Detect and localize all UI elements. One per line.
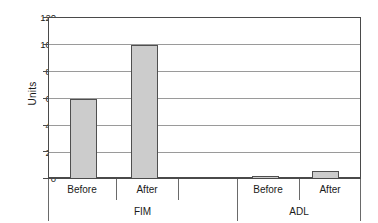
bar-fim-before bbox=[70, 99, 97, 180]
x-label-fim-before: Before bbox=[48, 178, 116, 200]
x-sub-separator-0 bbox=[48, 179, 49, 200]
plot-area bbox=[48, 17, 361, 178]
x-group-label-fim: FIM bbox=[48, 200, 237, 222]
x-label-fim-empty bbox=[178, 178, 237, 200]
x-axis-sub-band: Before After Before After bbox=[48, 178, 361, 200]
x-group-label-adl: ADL bbox=[237, 200, 361, 222]
x-sub-separator-2 bbox=[178, 179, 179, 200]
x-axis-group-band: FIM ADL bbox=[48, 200, 361, 222]
bar-chart: Units 120 100 80 60 40 20 0 Before After… bbox=[0, 0, 378, 223]
x-sub-separator-1 bbox=[116, 179, 117, 200]
gridline-100 bbox=[49, 44, 360, 45]
gridline-80 bbox=[49, 71, 360, 72]
x-label-adl-after: After bbox=[299, 178, 361, 200]
x-sub-separator-4 bbox=[299, 179, 300, 200]
x-sub-separator-3 bbox=[237, 179, 238, 200]
x-group-separator-0 bbox=[48, 200, 49, 221]
bar-fim-after bbox=[131, 45, 158, 179]
x-group-separator-2 bbox=[360, 200, 361, 221]
x-sub-separator-5 bbox=[360, 179, 361, 200]
x-group-separator-1 bbox=[237, 200, 238, 221]
x-label-fim-after: After bbox=[116, 178, 178, 200]
x-label-adl-before: Before bbox=[237, 178, 299, 200]
